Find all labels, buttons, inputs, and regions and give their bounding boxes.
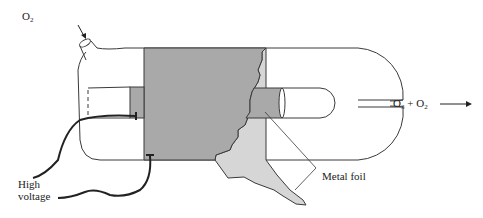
inner-foil-right: [246, 88, 282, 118]
inlet-arrowhead: [81, 33, 86, 39]
inner-glass-tube-left: [88, 87, 130, 118]
outlet-arrowhead: [466, 101, 472, 107]
high-voltage-label-line1: High: [18, 178, 50, 190]
high-voltage-wire-upper: [33, 116, 136, 179]
inner-glass-tube-right: [282, 88, 335, 118]
high-voltage-wire-lower: [58, 156, 150, 198]
outlet-gas-label: O3 + O2: [393, 97, 428, 113]
inner-tube-end: [279, 88, 285, 118]
inlet-opening: [78, 37, 91, 48]
ozone-generator-diagram: O2 O3 + O2 High voltage Metal foil: [0, 0, 483, 218]
high-voltage-label-line2: voltage: [18, 190, 50, 202]
inlet-gas-label: O2: [22, 10, 33, 26]
high-voltage-label: High voltage: [18, 178, 50, 202]
metal-foil-label: Metal foil: [322, 170, 366, 182]
